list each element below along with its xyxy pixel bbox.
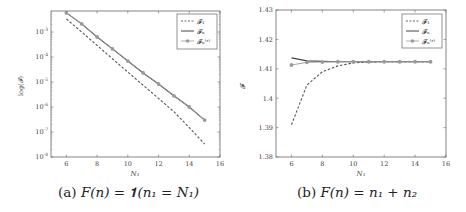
legend-fn-eps-label: 𝓕ₙ⁽ᵋ⁾: [197, 38, 211, 46]
y-tick-label: 1.4: [263, 95, 273, 103]
data-point-marker: [95, 35, 99, 39]
x-tick-label: 14: [185, 160, 193, 168]
data-point-marker: [187, 105, 191, 109]
x-tick-label: 6: [64, 160, 68, 168]
legend-fn-eps-label: 𝓕ₙ⁽ᵋ⁾: [422, 38, 436, 46]
data-point-marker: [367, 60, 371, 64]
legend-f1-label: 𝓕₁: [197, 18, 205, 26]
data-point-marker: [64, 11, 68, 15]
data-point-marker: [111, 47, 115, 51]
y-tick-label: 10-7: [35, 127, 48, 136]
chart-b-legend: 𝓕₁ 𝓕ₙ 𝓕ₙ⁽ᵋ⁾: [402, 14, 442, 48]
caption-a-prefix: (a): [58, 184, 77, 200]
data-point-marker: [157, 82, 161, 86]
data-point-marker: [382, 60, 386, 64]
chart-a-x-tick-labels: 6810121416: [64, 160, 224, 168]
x-tick-label: 16: [442, 160, 450, 168]
legend-f1-label: 𝓕₁: [422, 18, 430, 26]
legend-fn-label: 𝓕ₙ: [422, 28, 430, 36]
caption-b-prefix: (b): [297, 184, 316, 200]
y-tick-label: 1.41: [259, 65, 273, 73]
x-tick-label: 8: [95, 160, 99, 168]
data-point-marker: [351, 60, 355, 64]
caption-a-formula: F(n) = 𝟏(n₁ = N₁): [81, 184, 199, 200]
y-tick-label: 1.42: [259, 36, 273, 44]
data-point-marker: [320, 60, 324, 64]
series-fn: [292, 58, 431, 62]
caption-a: (a) F(n) = 𝟏(n₁ = N₁): [58, 184, 199, 201]
legend-fn-label: 𝓕ₙ: [197, 28, 205, 36]
chart-b-linear-plot: 1.381.391.41.411.421.43 6810121416 𝓕 N₁ …: [233, 0, 466, 180]
data-point-marker: [398, 60, 402, 64]
chart-b-series: [290, 58, 433, 125]
data-point-marker: [413, 60, 417, 64]
chart-b-y-tick-labels: 1.381.391.41.411.421.43: [259, 6, 273, 161]
chart-b-y-axis-label: 𝓕: [239, 82, 247, 89]
series-f1: [292, 62, 431, 125]
chart-a-y-axis-label: log(𝓕): [17, 75, 25, 96]
y-tick-label: 10-3: [35, 27, 48, 36]
y-tick-label: 10-5: [35, 77, 48, 86]
data-point-marker: [80, 22, 84, 26]
x-tick-label: 12: [380, 160, 388, 168]
y-tick-label: 1.39: [259, 124, 273, 132]
y-tick-label: 10-6: [35, 102, 48, 111]
data-point-marker: [336, 60, 340, 64]
data-point-marker: [429, 60, 433, 64]
chart-b-x-axis-label: N₁: [356, 170, 366, 178]
data-point-marker: [203, 118, 207, 122]
caption-b: (b) F(n) = n₁ + n₂: [297, 184, 417, 200]
y-tick-label: 1.43: [259, 6, 273, 14]
x-tick-label: 6: [289, 160, 293, 168]
chart-a-y-tick-labels: 10-810-710-610-510-410-3: [35, 27, 48, 161]
x-tick-label: 14: [411, 160, 419, 168]
y-tick-label: 10-4: [35, 52, 48, 61]
x-tick-label: 10: [349, 160, 357, 168]
data-point-marker: [172, 94, 176, 98]
x-tick-label: 8: [320, 160, 324, 168]
x-tick-label: 12: [154, 160, 162, 168]
data-point-marker: [141, 71, 145, 75]
chart-a-legend: 𝓕₁ 𝓕ₙ 𝓕ₙ⁽ᵋ⁾: [177, 14, 217, 49]
chart-b-x-tick-labels: 6810121416: [289, 160, 450, 168]
x-tick-label: 10: [124, 160, 132, 168]
x-tick-label: 16: [216, 160, 224, 168]
data-point-marker: [305, 60, 309, 64]
caption-b-formula: F(n) = n₁ + n₂: [320, 184, 417, 200]
y-tick-label: 10-8: [35, 152, 48, 161]
chart-a-x-axis-label: N₁: [130, 170, 140, 178]
data-point-marker: [126, 59, 130, 63]
data-point-marker: [290, 63, 294, 67]
y-tick-label: 1.38: [259, 153, 273, 161]
chart-a-log-plot: 10-810-710-610-510-410-3 6810121416 log(…: [0, 0, 233, 180]
